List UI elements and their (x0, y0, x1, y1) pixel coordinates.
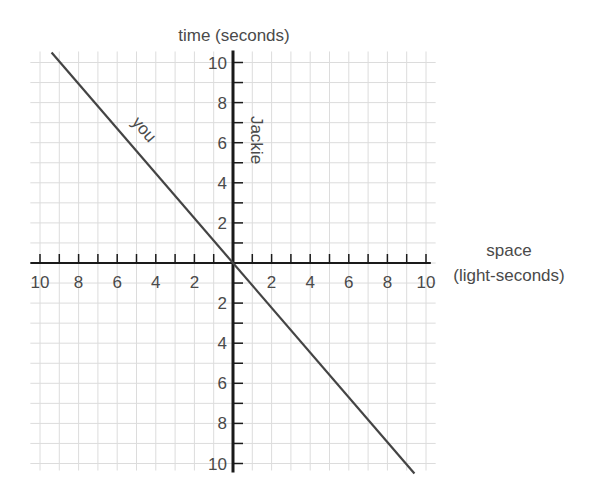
time-tick-label-positive: 8 (218, 94, 227, 113)
time-tick-label-positive: 6 (218, 134, 227, 153)
space-tick-label: 2 (190, 273, 199, 292)
time-tick-label-positive: 2 (218, 214, 227, 233)
space-tick-label: 10 (31, 273, 50, 292)
space-tick-label: 4 (151, 273, 160, 292)
jackie-label: Jackie (247, 116, 266, 164)
spacetime-diagram: 108642246810108642246810 time (seconds) … (0, 0, 608, 492)
space-axis-label: space (486, 241, 531, 260)
time-tick-label-negative: 2 (218, 294, 227, 313)
space-tick-label: 8 (74, 273, 83, 292)
space-tick-label: 10 (417, 273, 436, 292)
time-tick-label-positive: 10 (208, 54, 227, 73)
time-tick-label-negative: 8 (218, 414, 227, 433)
space-tick-label: 6 (112, 273, 121, 292)
time-axis-label: time (seconds) (178, 26, 289, 45)
time-tick-label-negative: 10 (208, 455, 227, 474)
time-tick-label-negative: 4 (218, 334, 227, 353)
space-tick-label: 8 (383, 273, 392, 292)
space-axis-unit-label: (light-seconds) (453, 266, 565, 285)
space-tick-label: 6 (344, 273, 353, 292)
time-tick-label-negative: 6 (218, 374, 227, 393)
time-tick-label-positive: 4 (218, 174, 227, 193)
space-tick-label: 2 (267, 273, 276, 292)
space-tick-label: 4 (305, 273, 314, 292)
